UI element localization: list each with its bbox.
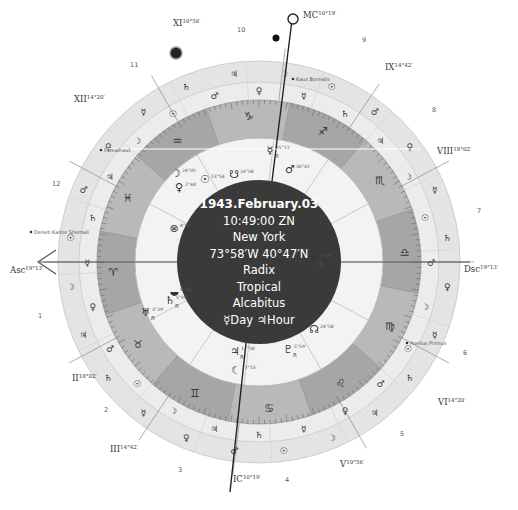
outer-ring-glyph: ♀ (444, 282, 451, 292)
outer-ring-glyph: ♄ (182, 82, 190, 92)
zodiac-sign-glyph: ♉ (133, 338, 143, 351)
planet-glyph: ♃ (230, 345, 240, 358)
chart-place: New York (233, 229, 286, 246)
outer-ring-glyph: ♃ (79, 330, 87, 340)
house-number: 2 (104, 406, 108, 414)
zodiac-sign-glyph: ♒ (172, 135, 182, 148)
outer-ring-glyph: ♄ (443, 233, 451, 243)
asc-label: Asc19°13′ (9, 265, 44, 275)
chart-house-system: Alcabitus (233, 295, 286, 312)
outer-ring-glyph: ☽ (421, 302, 429, 312)
planet-degree: 5°59′ (294, 344, 306, 349)
outer-ring-glyph: ☿ (432, 330, 438, 340)
outer-ring-glyph: ♃ (210, 424, 218, 434)
fixed-star-label: Asellus Primus (410, 340, 447, 346)
outer-ring-glyph: ♂ (106, 344, 114, 354)
house-number: 10 (237, 26, 245, 34)
planet-glyph: ♂ (285, 163, 295, 176)
house-number: 7 (477, 207, 481, 215)
house-cusp-label: XII14°20′ (74, 94, 106, 104)
planet-degree: 25°11′ (276, 145, 291, 150)
chart-day-hour: ☿Day ♃Hour (223, 312, 294, 329)
chart-zodiac: Tropical (237, 279, 281, 296)
house-number: 1 (38, 312, 42, 320)
chart-type: Radix (243, 262, 275, 279)
zodiac-sign-glyph: ♍ (385, 320, 395, 333)
dsc-label: Dsc19°13′ (464, 264, 499, 274)
zodiac-sign-glyph: ♊ (190, 387, 200, 400)
retrograde-marker: R (151, 315, 155, 321)
planet-degree: 24°05′ (182, 168, 197, 173)
outer-ring-glyph: ♂ (79, 185, 87, 195)
zodiac-sign-glyph: ♎ (400, 246, 410, 259)
chart-time: 10:49:00 ZN (223, 213, 295, 230)
retrograde-marker: R (275, 153, 279, 159)
fixed-star-label: Kaus Borealis (296, 76, 330, 82)
chart-date: 1943.February.03 (200, 196, 319, 213)
outer-ring-glyph: ☉ (280, 446, 288, 456)
fixed-star-label: Fomalhaut (104, 147, 130, 153)
planet-degree: 13°54′ (211, 174, 226, 179)
outer-ring-glyph: ♃ (371, 408, 379, 418)
planet-glyph: ♇ (283, 343, 293, 356)
house-cusp-label: VIII18°02′ (436, 146, 472, 156)
planet-glyph: ♅ (141, 306, 151, 319)
outer-ring-glyph: ☿ (432, 185, 438, 195)
chart-coordinates: 73°58′W 40°47′N (210, 246, 309, 263)
zodiac-sign-glyph: ♈ (108, 266, 118, 279)
house-cusp-label: III14°42′ (110, 444, 139, 454)
house-cusp-label: VI14°20′ (437, 397, 466, 407)
planet-degree: 24°58′ (240, 169, 255, 174)
zodiac-sign-glyph: ♑ (244, 110, 254, 123)
outer-ring-glyph: ♄ (89, 213, 97, 223)
zodiac-sign-glyph: ♋ (264, 402, 274, 415)
outer-ring-glyph: ☉ (328, 82, 336, 92)
house-number: 11 (130, 61, 138, 69)
fixed-star-dot (292, 78, 295, 81)
house-number: 8 (432, 106, 436, 114)
house-number: 4 (285, 476, 289, 484)
retrograde-marker: R (240, 354, 244, 360)
chart-info-panel: 1943.February.03 10:49:00 ZN New York 73… (179, 182, 339, 342)
planet-degree: 17°53′ (242, 365, 257, 370)
outer-ring-glyph: ☿ (301, 424, 307, 434)
outer-ring-glyph: ☉ (169, 109, 177, 119)
outer-ring-glyph: ☿ (141, 408, 147, 418)
house-number: 12 (52, 180, 60, 188)
house-number: 5 (400, 430, 404, 438)
planet-degree: 17°58′ (241, 346, 256, 351)
house-number: 6 (463, 349, 467, 357)
outer-ring-glyph: ♀ (90, 302, 97, 312)
outer-ring-glyph: ☿ (301, 91, 307, 101)
outer-ring-glyph: ♂ (371, 107, 379, 117)
planet-degree: 3°39′ (152, 307, 164, 312)
planet-degree: 30°42′ (296, 164, 311, 169)
zodiac-sign-glyph: ♌ (336, 377, 346, 390)
outer-planet-dot (273, 35, 280, 42)
house-cusp-label: IX14°42′ (385, 62, 413, 72)
fixed-star-label: Deneb Kaitos Shemali (34, 229, 89, 235)
zodiac-sign-glyph: ♐ (318, 125, 328, 138)
outer-ring-glyph: ☿ (141, 107, 147, 117)
house-number: 9 (362, 36, 366, 44)
outer-ring-glyph: ☽ (67, 282, 75, 292)
outer-ring-glyph: ☽ (328, 433, 336, 443)
outer-ring-glyph: ♄ (255, 430, 263, 440)
planet-glyph: ⯋ (170, 286, 179, 299)
planet-glyph: ☋ (229, 168, 239, 181)
zodiac-sign-glyph: ♏ (375, 174, 385, 187)
outer-ring-glyph: ♃ (106, 172, 114, 182)
house-cusp-label: XI10°56′ (173, 18, 201, 28)
outer-ring-glyph: ♂ (210, 91, 218, 101)
outer-ring-glyph: ☽ (133, 136, 141, 146)
planet-glyph: ☿ (267, 144, 274, 157)
outer-ring-glyph: ☉ (421, 213, 429, 223)
retrograde-marker: R (293, 352, 297, 358)
outer-ring-glyph: ♂ (377, 379, 385, 389)
zodiac-sign-glyph: ♓ (123, 192, 133, 205)
outer-ring-glyph: ♀ (342, 406, 349, 416)
fixed-star-dot (406, 342, 409, 345)
outer-ring-glyph: ☽ (404, 172, 412, 182)
mc-label: MC10°19′ (303, 10, 337, 20)
outer-ring-glyph: ☽ (169, 406, 177, 416)
